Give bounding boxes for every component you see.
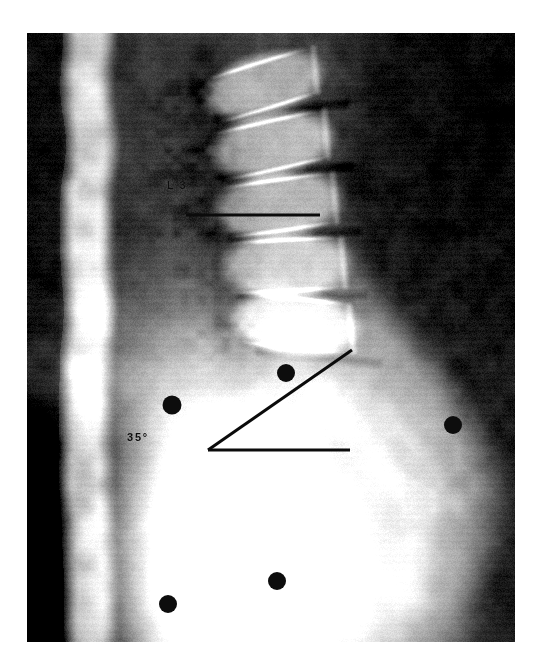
radiograph-image bbox=[27, 33, 515, 642]
angle-measurement-label: 35° bbox=[127, 431, 149, 443]
radiograph-figure: L 3 35° bbox=[27, 33, 515, 642]
page-root: L 3 35° bbox=[0, 0, 542, 668]
vertebra-level-label: L 3 bbox=[167, 179, 187, 191]
